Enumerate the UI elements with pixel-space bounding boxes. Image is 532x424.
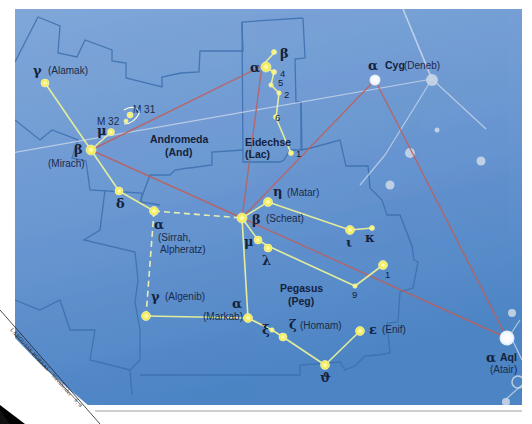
galaxy-m32 — [124, 119, 128, 123]
svg-text:(Deneb): (Deneb) — [404, 60, 440, 71]
svg-text:(Peg): (Peg) — [288, 295, 314, 307]
star-peg-xi — [270, 328, 274, 332]
svg-text:M 31: M 31 — [133, 104, 156, 115]
svg-text:κ: κ — [365, 230, 375, 245]
svg-text:μ: μ — [97, 123, 107, 138]
svg-text:Andromeda: Andromeda — [150, 133, 209, 145]
svg-text:α: α — [368, 58, 378, 73]
svg-text:Cyg: Cyg — [385, 59, 405, 71]
star-lac-4 — [272, 70, 277, 75]
svg-text:η: η — [273, 184, 282, 199]
svg-text:δ: δ — [116, 196, 125, 211]
svg-text:(Alamak): (Alamak) — [48, 65, 88, 76]
star-peg-alpha — [244, 314, 253, 323]
svg-text:ε: ε — [369, 322, 377, 337]
star-aql-alpha — [500, 331, 515, 346]
star-and-mu — [108, 129, 115, 136]
svg-text:(And): (And) — [165, 146, 192, 158]
svg-text:9: 9 — [352, 289, 357, 300]
svg-text:1: 1 — [296, 148, 301, 159]
star-peg-beta — [237, 213, 247, 223]
star-and-delta — [115, 187, 123, 195]
svg-text:ξ: ξ — [262, 322, 270, 337]
star-peg-9 — [353, 284, 357, 288]
svg-text:λ: λ — [262, 253, 271, 268]
svg-text:α: α — [486, 350, 496, 365]
svg-text:Pegasus: Pegasus — [280, 282, 323, 294]
svg-text:6: 6 — [275, 112, 280, 123]
star-peg-eta — [264, 198, 273, 207]
svg-text:(Enif): (Enif) — [382, 324, 406, 335]
svg-text:(Atair): (Atair) — [490, 364, 517, 375]
star-and-beta — [86, 145, 96, 155]
svg-text:γ: γ — [33, 63, 42, 78]
svg-text:ϑ: ϑ — [320, 370, 331, 385]
star-and-alpha — [150, 207, 159, 216]
svg-text:(Sirrah,: (Sirrah, — [158, 232, 191, 243]
star-lac-alpha — [261, 62, 271, 72]
svg-text:(Algenib): (Algenib) — [165, 291, 205, 302]
star-chart: γ (Alamak) M 32 M 31 μ β (Mirach) δ α (S… — [0, 0, 532, 424]
star-lac-2 — [277, 91, 281, 95]
svg-text:(Scheat): (Scheat) — [266, 213, 304, 224]
svg-text:(Mirach): (Mirach) — [48, 158, 85, 169]
svg-text:Aql: Aql — [500, 351, 517, 363]
svg-text:(Markab): (Markab) — [203, 311, 243, 322]
svg-text:γ: γ — [151, 289, 160, 304]
star-lac-beta — [272, 50, 277, 55]
star-and-gamma — [41, 79, 49, 87]
star-lac-1 — [289, 151, 294, 156]
svg-text:2: 2 — [284, 89, 289, 100]
svg-text:(Lac): (Lac) — [245, 148, 270, 160]
star-peg-gamma — [142, 312, 151, 321]
svg-text:Alpheratz): Alpheratz) — [160, 244, 206, 255]
svg-text:1: 1 — [385, 269, 390, 280]
svg-text:α: α — [232, 296, 242, 311]
svg-text:β: β — [74, 142, 83, 157]
svg-text:(Homam): (Homam) — [300, 320, 342, 331]
svg-text:β: β — [280, 46, 289, 61]
svg-text:α: α — [154, 217, 164, 232]
star-peg-epsilon — [356, 327, 365, 336]
svg-text:(Matar): (Matar) — [287, 187, 319, 198]
star-peg-theta — [321, 361, 330, 370]
svg-text:Eidechse: Eidechse — [245, 136, 291, 148]
svg-text:β: β — [252, 212, 261, 227]
star-cyg-alpha — [370, 75, 381, 86]
svg-text:α: α — [250, 60, 260, 75]
star-peg-zeta — [279, 333, 287, 341]
svg-text:ζ: ζ — [289, 317, 297, 332]
star-peg-mu — [254, 236, 262, 244]
star-peg-iota — [346, 226, 355, 235]
svg-text:μ: μ — [244, 234, 254, 249]
star-peg-lambda — [264, 244, 272, 252]
star-lac-5 — [269, 83, 273, 87]
svg-text:5: 5 — [278, 77, 283, 88]
